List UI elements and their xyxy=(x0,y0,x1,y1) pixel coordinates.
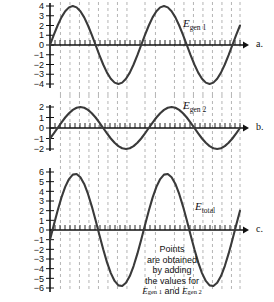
y-tick-labels-c: 6543210−1−2−3−4−5−6 xyxy=(34,167,44,293)
y-tick-label: 0 xyxy=(39,40,44,50)
y-tick-labels-a: 43210−1−2−3−4 xyxy=(34,1,44,89)
figure-root: 43210−1−2−3−4 Egen 1 a. 210−1−2 Egen 2 b… xyxy=(0,0,274,302)
y-tick-label: 1 xyxy=(39,30,44,40)
x-axis-arrow-c xyxy=(243,227,249,234)
y-tick-label: −4 xyxy=(34,79,44,89)
series-label-egen2-sub: gen 2 xyxy=(190,105,207,114)
caption-and: and xyxy=(162,286,182,296)
caption-line-1: Points xyxy=(112,244,232,255)
dashed-gridlines-a xyxy=(60,2,240,95)
y-tick-label: 5 xyxy=(39,177,44,187)
y-tick-label: −2 xyxy=(34,245,44,255)
chart-panel-etotal: 6543210−1−2−3−4−5−6 Etotal c. Points are… xyxy=(0,160,274,302)
series-label-egen1-sub: gen 1 xyxy=(190,23,207,32)
y-tick-label: −5 xyxy=(34,274,44,284)
y-tick-label: 2 xyxy=(39,206,44,216)
y-tick-labels-b: 210−1−2 xyxy=(34,102,44,154)
y-tick-label: 3 xyxy=(39,196,44,206)
x-axis-arrow-b xyxy=(243,125,249,132)
caption-line-5: Egen 1 and Egen 2 xyxy=(112,286,232,298)
y-tick-label: −3 xyxy=(34,69,44,79)
y-tick-label: −1 xyxy=(34,50,44,60)
y-tick-label: 2 xyxy=(39,102,44,112)
caption-line-3: by adding xyxy=(112,265,232,276)
chart-egen2-svg: 210−1−2 Egen 2 xyxy=(0,95,274,160)
part-label-b: b. xyxy=(256,121,264,132)
caption-line-4: the values for xyxy=(112,276,232,287)
series-label-etotal-sub: total xyxy=(202,206,215,215)
chart-panel-egen1: 43210−1−2−3−4 Egen 1 a. xyxy=(0,0,274,95)
y-tick-label: 3 xyxy=(39,11,44,21)
y-tick-label: 0 xyxy=(39,225,44,235)
y-tick-label: 6 xyxy=(39,167,44,177)
y-tick-label: 0 xyxy=(39,123,44,133)
chart-panel-egen2: 210−1−2 Egen 2 b. xyxy=(0,95,274,160)
caption-line-2: are obtained xyxy=(112,255,232,266)
y-tick-label: 1 xyxy=(39,216,44,226)
chart-egen1-svg: 43210−1−2−3−4 Egen 1 xyxy=(0,0,274,95)
y-tick-label: −1 xyxy=(34,235,44,245)
series-label-egen1: Egen 1 xyxy=(182,17,206,32)
caption-egen2-sub: gen 2 xyxy=(188,288,202,295)
y-tick-label: −3 xyxy=(34,254,44,264)
y-tick-label: 2 xyxy=(39,21,44,31)
y-tick-label: −1 xyxy=(34,134,44,144)
part-label-c: c. xyxy=(256,223,263,234)
y-tick-label: 1 xyxy=(39,113,44,123)
part-label-a: a. xyxy=(256,38,263,49)
figure-caption: Points are obtained by adding the values… xyxy=(112,244,232,298)
y-tick-label: −2 xyxy=(34,60,44,70)
y-tick-label: −4 xyxy=(34,264,44,274)
y-tick-label: −2 xyxy=(34,144,44,154)
y-tick-label: 4 xyxy=(39,1,44,11)
y-tick-label: −6 xyxy=(34,283,44,293)
x-axis-arrow-a xyxy=(243,42,249,49)
series-label-etotal: Etotal xyxy=(194,200,215,215)
y-tick-label: 4 xyxy=(39,187,44,197)
caption-egen1-sub: gen 1 xyxy=(148,288,162,295)
